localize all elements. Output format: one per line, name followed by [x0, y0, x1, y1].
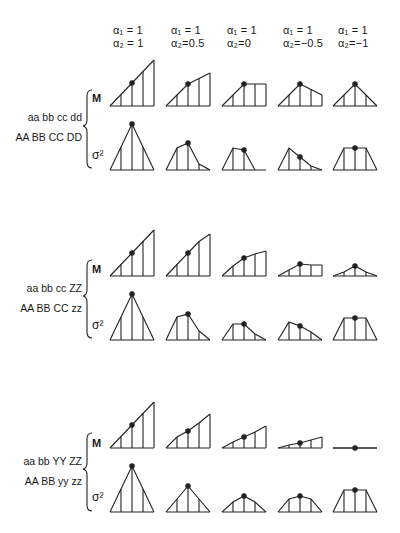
- mean-profile: [278, 82, 322, 106]
- variance-profile: [222, 148, 266, 170]
- mean-point-dot: [353, 488, 357, 492]
- mean-profile: [333, 264, 377, 276]
- variance-profile: [166, 141, 210, 170]
- variance-profile: [166, 312, 210, 340]
- mean-point-dot: [186, 82, 190, 86]
- variance-profile: [278, 494, 322, 512]
- brace-icon: [83, 90, 92, 511]
- mean-point-dot: [298, 494, 302, 498]
- mean-profile: [278, 262, 322, 276]
- variance-profile: [222, 494, 266, 512]
- mean-point-dot: [242, 494, 246, 498]
- mean-point-dot: [186, 251, 190, 255]
- variance-profile: [222, 322, 266, 340]
- mean-point-dot: [353, 146, 357, 150]
- mean-point-dot: [242, 256, 246, 260]
- mean-profile: [166, 414, 210, 448]
- variance-profile: [110, 464, 154, 512]
- mean-point-dot: [298, 262, 302, 266]
- variance-profile: [110, 122, 154, 170]
- mean-point-dot: [242, 435, 246, 439]
- mean-point-dot: [130, 122, 134, 126]
- mean-profile: [278, 437, 322, 448]
- mean-profile: [110, 230, 154, 276]
- variance-profile: [333, 316, 377, 340]
- mean-profile: [110, 402, 154, 448]
- mean-profile: [222, 251, 266, 276]
- mean-point-dot: [298, 441, 302, 445]
- mean-profile: [166, 234, 210, 276]
- variance-profile: [110, 292, 154, 340]
- mean-point-dot: [298, 155, 302, 159]
- mean-point-dot: [130, 81, 134, 85]
- mean-point-dot: [186, 312, 190, 316]
- variance-profile: [278, 148, 322, 170]
- mean-profile: [333, 446, 377, 450]
- mean-point-dot: [298, 82, 302, 86]
- variance-profile: [333, 488, 377, 512]
- variance-profile: [278, 322, 322, 340]
- mean-point-dot: [298, 324, 302, 328]
- mean-point-dot: [186, 141, 190, 145]
- mean-point-dot: [353, 82, 357, 86]
- mean-profile: [166, 73, 210, 106]
- mean-profile: [110, 60, 154, 106]
- mean-point-dot: [353, 316, 357, 320]
- mean-point-dot: [186, 429, 190, 433]
- mean-point-dot: [242, 148, 246, 152]
- variance-profile: [166, 484, 210, 512]
- mean-profile: [333, 82, 377, 106]
- mean-point-dot: [242, 322, 246, 326]
- mean-point-dot: [242, 82, 246, 86]
- mean-profile: [222, 82, 266, 106]
- profile-diagram: [0, 0, 400, 533]
- mean-profile: [222, 426, 266, 448]
- mean-point-dot: [353, 446, 357, 450]
- mean-point-dot: [353, 264, 357, 268]
- variance-profile: [333, 146, 377, 170]
- mean-point-dot: [186, 484, 190, 488]
